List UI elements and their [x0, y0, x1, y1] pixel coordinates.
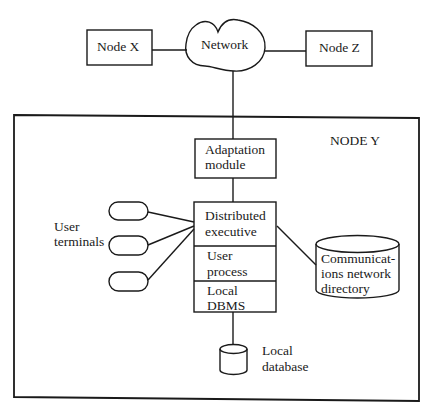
comm-directory-label-1: Communicat- [321, 251, 395, 266]
local-dbms-label-2: DBMS [207, 298, 245, 313]
user-terminal-2-icon [109, 236, 148, 255]
local-database-label-2: database [262, 359, 308, 374]
user-terminal-1-icon [109, 202, 148, 220]
distributed-executive-label-2: executive [205, 224, 257, 239]
link-terminal-2 [148, 226, 194, 245]
distributed-executive-label-1: Distributed [205, 208, 266, 223]
comm-directory-label-3: directory [321, 281, 370, 296]
user-terminal-3-icon [109, 272, 148, 291]
local-database-label-1: Local [262, 343, 293, 358]
adaptation-module-label-1: Adaptation [205, 142, 265, 157]
user-process-label-1: User [207, 248, 233, 263]
link-terminal-3 [148, 229, 194, 280]
node-z-label: Node Z [319, 40, 360, 55]
network-label: Network [201, 37, 248, 52]
link-terminal-1 [148, 212, 194, 222]
local-database-cylinder-icon [220, 345, 247, 375]
local-dbms-label-1: Local [207, 283, 238, 298]
node-x-label: Node X [97, 39, 139, 54]
user-process-label-2: process [207, 264, 248, 279]
user-terminals-label-2: terminals [54, 234, 104, 249]
diagram-canvas [0, 0, 432, 412]
link-executive-directory [277, 226, 316, 265]
user-terminals-label-1: User [54, 219, 80, 234]
comm-directory-label-2: ions network [321, 266, 391, 281]
node-y-title: NODE Y [330, 133, 380, 148]
adaptation-module-label-2: module [205, 157, 246, 172]
